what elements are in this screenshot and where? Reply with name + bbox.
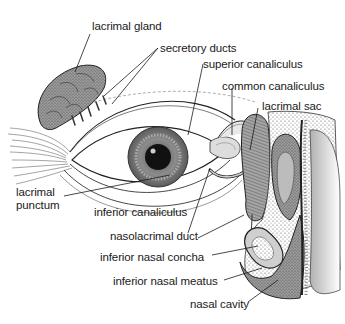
label-lacrimal-gland: lacrimal gland [92, 20, 162, 33]
lacrimal-apparatus-diagram: lacrimal gland secretory ducts superior … [0, 0, 345, 324]
label-lacrimal-sac: lacrimal sac [262, 100, 322, 113]
label-inferior-canaliculus: inferior canaliculus [94, 206, 187, 219]
lateral-tissue-lines [8, 128, 72, 184]
label-nasal-cavity: nasal cavity [190, 298, 249, 311]
label-nasolacrimal-duct: nasolacrimal duct [110, 230, 198, 243]
label-common-canaliculus: common canaliculus [222, 80, 324, 93]
label-lacrimal-punctum: lacrimal punctum [16, 186, 59, 212]
label-secretory-ducts: secretory ducts [160, 42, 236, 55]
label-inferior-nasal-concha: inferior nasal concha [100, 251, 204, 264]
lacrimal-gland-shape [38, 65, 106, 129]
pupil [145, 144, 171, 170]
label-superior-canaliculus: superior canaliculus [203, 58, 303, 71]
label-inferior-nasal-meatus: inferior nasal meatus [113, 275, 218, 288]
